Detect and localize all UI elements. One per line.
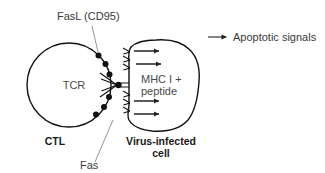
ctl-cell-group: TCR: [27, 43, 131, 127]
diagram-canvas: TCR: [0, 0, 325, 173]
fasl-dot: [96, 53, 102, 59]
fas-leader-line: [95, 120, 113, 162]
mhc-label-line1: MHC I +: [141, 73, 182, 85]
fasl-dot: [107, 72, 113, 78]
fasl-label: FasL (CD95): [57, 10, 120, 22]
fas-label: Fas: [80, 159, 99, 171]
target-cell-label-line2: cell: [152, 147, 170, 159]
figure-container: TCR: [0, 0, 325, 173]
right-arrow-icon: [208, 35, 227, 40]
fasl-dot: [101, 104, 107, 110]
legend-label: Apoptotic signals: [233, 31, 317, 43]
virus-infected-cell-group: MHC I + peptide: [123, 40, 199, 131]
fasl-dot: [103, 61, 109, 67]
target-cell-label-line1: Virus-infected: [126, 135, 196, 147]
fasl-dot: [106, 94, 112, 100]
tcr-label: TCR: [63, 79, 86, 91]
mhc-label-line2: peptide: [141, 85, 177, 97]
fasl-dot: [93, 112, 99, 118]
legend-group: Apoptotic signals: [208, 31, 317, 43]
fasl-leader-line: [92, 26, 98, 52]
ctl-label: CTL: [45, 135, 66, 147]
tcr-binding-dot: [115, 82, 121, 88]
